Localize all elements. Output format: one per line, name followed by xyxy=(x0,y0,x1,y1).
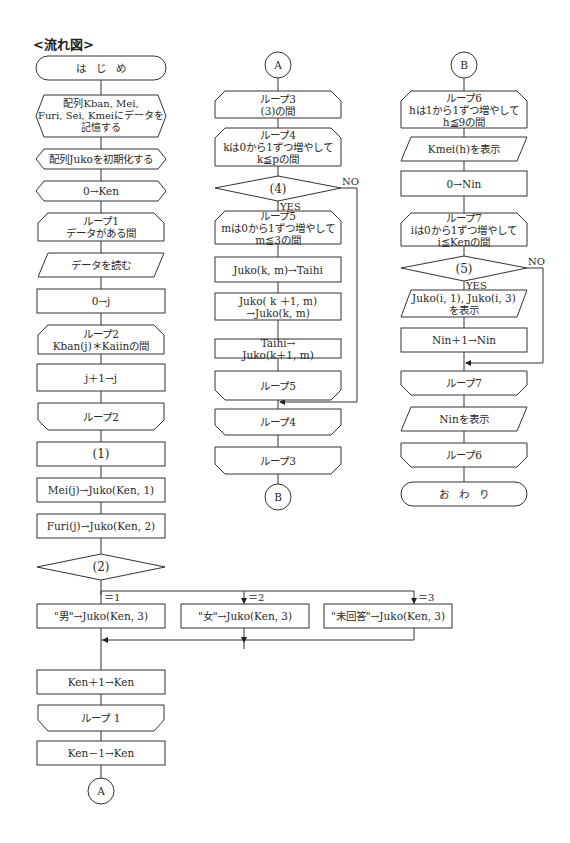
branch-eq1-label: ＝1 xyxy=(104,592,120,603)
loop5-end-label: ループ5 xyxy=(215,371,341,400)
process-female-label: "女"→Juko(Ken, 3) xyxy=(181,604,309,628)
loop1-end-label: ループ 1 xyxy=(38,705,164,731)
loop4-end-label: ループ4 xyxy=(215,409,341,435)
loop3-start-label: ループ3 (3)の間 xyxy=(215,91,341,118)
show-juko-label: Juko(i, 1), Juko(i, 3) を表示 xyxy=(401,290,527,317)
loop6-start-label: ループ6 hは1から1ずつ増やして h≦9の間 xyxy=(401,91,527,128)
branch-eq2-label: ＝2 xyxy=(248,592,264,603)
process-mei-label: Mei(j)→Juko(Ken, 1) xyxy=(37,478,165,502)
decision-5-no-label: NO xyxy=(528,256,545,267)
prep-store-arrays-label: 配列Kban, Mei, Furi, Sei, Kmeiにデータを 記憶する xyxy=(36,95,166,137)
process-swap-3-label: Taihi→ Juko(k＋1, m) xyxy=(215,339,341,358)
process-nin-zero-label: 0→Nin xyxy=(401,171,527,196)
blank-1-label: (1) xyxy=(37,442,165,466)
loop2-start-label: ループ2 Kban(j)＊Kaiinの間 xyxy=(38,325,164,354)
decision-5-label: (5) xyxy=(401,256,527,281)
connector-b-in-label: B xyxy=(451,52,477,78)
read-data-label: データを読む xyxy=(38,253,164,277)
process-ken-dec-label: Ken－1→Ken xyxy=(37,741,165,765)
end-label: お わ り xyxy=(401,482,527,506)
loop6-end-label: ループ6 xyxy=(401,443,527,467)
loop7-end-label: ループ7 xyxy=(401,371,527,395)
decision-2-label: (2) xyxy=(37,554,165,580)
connector-b-out-label: B xyxy=(265,484,291,510)
connector-a-in-label: A xyxy=(265,52,291,78)
process-furi-label: Furi(j)→Juko(Ken, 2) xyxy=(37,514,165,538)
prep-ken-zero-label: 0→Ken xyxy=(36,181,166,201)
show-nin-label: Ninを表示 xyxy=(401,407,527,431)
decision-4-label: (4) xyxy=(215,176,341,201)
process-j-zero-label: 0→j xyxy=(37,289,165,313)
process-swap-2-label: Juko( k ＋1, m) →Juko(k, m) xyxy=(215,293,341,320)
process-unanswered-label: "未回答"→Juko(Ken, 3) xyxy=(324,604,452,628)
loop5-start-label: ループ5 mは0から1ずつ増やして m≦3の間 xyxy=(215,211,341,244)
loop3-end-label: ループ3 xyxy=(215,447,341,474)
process-male-label: "男"→Juko(Ken, 3) xyxy=(37,604,165,628)
branch-eq3-label: ＝3 xyxy=(418,592,434,603)
prep-init-juko-label: 配列Jukoを初期化する xyxy=(36,149,166,169)
process-nin-inc-label: Nin＋1→Nin xyxy=(401,328,527,352)
loop4-start-label: ループ4 kは0から1ずつ増やして k≦pの間 xyxy=(215,128,341,166)
start-label: は じ め xyxy=(36,56,166,80)
loop1-start-label: ループ1 データがある間 xyxy=(38,213,164,241)
process-ken-inc-label: Ken＋1→Ken xyxy=(37,670,165,694)
connector-a-out-label: A xyxy=(88,778,114,804)
loop2-end-label: ループ2 xyxy=(38,403,164,430)
decision-4-no-label: NO xyxy=(342,176,359,187)
process-swap-1-label: Juko(k, m)→Taihi xyxy=(215,257,341,282)
show-kmei-label: Kmei(h)を表示 xyxy=(401,137,527,161)
process-j-inc-label: j＋1→j xyxy=(37,364,165,391)
loop7-start-label: ループ7 iは0から1ずつ増やして i≦Kenの間 xyxy=(401,213,527,246)
